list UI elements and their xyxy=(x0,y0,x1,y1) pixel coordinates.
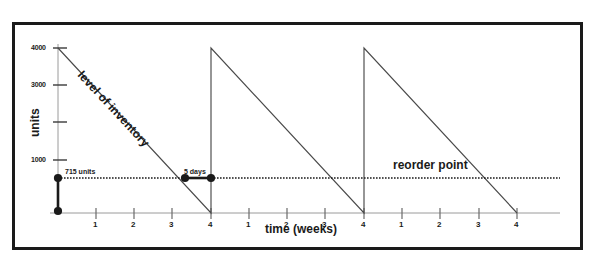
x-axis-tick-label-2a: 2 xyxy=(131,220,135,229)
y-axis-tick-label-4000: 4000 xyxy=(31,44,46,51)
lead-time-start-dot xyxy=(181,174,189,182)
x-axis-tick-label-1b: 1 xyxy=(246,220,250,229)
x-axis-tick-label-4b: 4 xyxy=(361,220,365,229)
inventory-chart-figure: 4000 3000 1000 units 1 2 3 4 1 2 3 4 1 2… xyxy=(0,0,596,266)
lead-time-end-dot xyxy=(207,174,215,182)
reorder-point-annotation: reorder point xyxy=(393,158,468,172)
x-axis-title: time (weeks) xyxy=(265,222,337,236)
x-axis-tick-label-3a: 3 xyxy=(169,220,173,229)
x-axis-tick-label-2c: 2 xyxy=(437,220,441,229)
x-axis-tick-label-4c: 4 xyxy=(514,220,518,229)
x-axis-tick-label-1c: 1 xyxy=(399,220,403,229)
reorder-point-dot xyxy=(54,174,62,182)
y-axis-tick-label-1000: 1000 xyxy=(31,156,46,163)
y-axis-tick-label-3000: 3000 xyxy=(31,81,46,88)
reorder-units-annotation: 715 units xyxy=(65,168,95,175)
y-axis-title: units xyxy=(28,108,42,137)
reorder-baseline-dot xyxy=(54,207,62,215)
x-axis-tick-label-4a: 4 xyxy=(208,220,212,229)
x-axis-tick-label-1a: 1 xyxy=(93,220,97,229)
lead-time-annotation: 5 days xyxy=(184,168,206,175)
x-axis-tick-label-3c: 3 xyxy=(476,220,480,229)
